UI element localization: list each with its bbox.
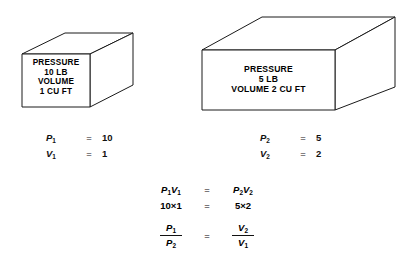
symbolic-left-side: P1V1 [148, 184, 194, 195]
state-1-pressure-label: PRESSURE [22, 58, 90, 68]
ratio-equation: P1 P2 = V2 V1 [152, 222, 262, 249]
state-2-box-graphic [190, 0, 412, 125]
equals-sign: = [76, 132, 102, 143]
variable-symbol-v2: V2 [260, 148, 290, 159]
equals-sign: = [190, 230, 224, 241]
variable-symbol-p2: P2 [260, 132, 290, 143]
state-1-variables: P1 = 10 V1 = 1 [46, 132, 136, 164]
state-1-pressure-value: 10 LB [22, 68, 90, 78]
variable-row: P2 = 5 [260, 132, 350, 148]
variable-value-p2: 5 [316, 132, 350, 143]
state-2-variables: P2 = 5 V2 = 2 [260, 132, 350, 164]
equals-sign: = [76, 148, 102, 159]
state-1-box-label: PRESSURE 10 LB VOLUME 1 CU FT [22, 58, 90, 97]
variable-row: V2 = 2 [260, 148, 350, 164]
variable-value-v2: 2 [316, 148, 350, 159]
ratio-right-fraction: V2 V1 [224, 222, 262, 249]
ratio-right-denominator: V1 [236, 237, 250, 249]
state-1-volume-value: 1 CU FT [22, 87, 90, 97]
equals-sign: = [290, 132, 316, 143]
state-2-pressure-value: 5 LB [202, 74, 335, 84]
state-1-volume-label: VOLUME [22, 77, 90, 87]
variable-value-v1: 1 [102, 148, 136, 159]
ratio-left-denominator: P2 [164, 237, 178, 249]
fraction-bar [232, 235, 254, 236]
ratio-left-numerator: P1 [164, 222, 178, 234]
diagram-canvas: PRESSURE 10 LB VOLUME 1 CU FT PRESSURE 5… [0, 0, 412, 264]
equals-sign: = [194, 184, 220, 195]
numeric-left-side: 10×1 [148, 200, 194, 211]
product-equations: P1V1 = P2V2 10×1 = 5×2 [148, 184, 266, 216]
state-2-volume-line: VOLUME 2 CU FT [202, 84, 335, 94]
numeric-right-side: 5×2 [220, 200, 266, 211]
state-2-pressure-label: PRESSURE [202, 64, 335, 74]
ratio-left-fraction: P1 P2 [152, 222, 190, 249]
state-2-box-label: PRESSURE 5 LB VOLUME 2 CU FT [202, 64, 335, 94]
symbolic-equation-row: P1V1 = P2V2 [148, 184, 266, 200]
variable-value-p1: 10 [102, 132, 136, 143]
ratio-right-numerator: V2 [236, 222, 250, 234]
equals-sign: = [290, 148, 316, 159]
variable-symbol-v1: V1 [46, 148, 76, 159]
symbolic-right-side: P2V2 [220, 184, 266, 195]
equals-sign: = [194, 200, 220, 211]
fraction-bar [160, 235, 182, 236]
variable-row: P1 = 10 [46, 132, 136, 148]
variable-symbol-p1: P1 [46, 132, 76, 143]
numeric-equation-row: 10×1 = 5×2 [148, 200, 266, 216]
variable-row: V1 = 1 [46, 148, 136, 164]
